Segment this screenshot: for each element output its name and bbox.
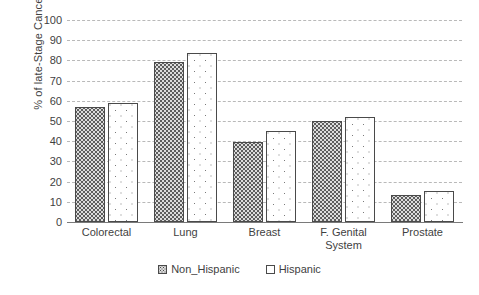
legend-swatch-icon bbox=[158, 265, 167, 274]
bar[interactable] bbox=[312, 121, 342, 222]
bar-group bbox=[304, 20, 383, 222]
plot-area bbox=[67, 20, 462, 222]
x-axis-label-line: F. Genital bbox=[304, 226, 383, 239]
bar[interactable] bbox=[345, 117, 375, 222]
y-axis-tick: 90 bbox=[30, 34, 62, 46]
legend-swatch-icon bbox=[266, 265, 275, 274]
x-axis-category-label: Colorectal bbox=[67, 226, 146, 239]
bar-group bbox=[67, 20, 146, 222]
y-axis-tick: 80 bbox=[30, 54, 62, 66]
x-axis-label-line: Prostate bbox=[383, 226, 462, 239]
chart-legend: Non_HispanicHispanic bbox=[0, 263, 479, 275]
bar-chart: % of late-Stage Cancers 1009080706050403… bbox=[0, 0, 479, 295]
y-axis-tick: 20 bbox=[30, 176, 62, 188]
bar[interactable] bbox=[233, 142, 263, 222]
bar-group bbox=[146, 20, 225, 222]
y-axis-tick: 30 bbox=[30, 155, 62, 167]
bar[interactable] bbox=[266, 131, 296, 222]
x-axis-category-labels: ColorectalLungBreastF. GenitalSystemPros… bbox=[67, 226, 462, 260]
y-axis-tick: 0 bbox=[30, 216, 62, 228]
y-axis-tick: 10 bbox=[30, 196, 62, 208]
x-axis-category-label: Lung bbox=[146, 226, 225, 239]
x-axis-label-line: Lung bbox=[146, 226, 225, 239]
bar[interactable] bbox=[424, 191, 454, 222]
gridline bbox=[67, 222, 462, 223]
y-axis-tick: 100 bbox=[30, 14, 62, 26]
y-axis-tick: 50 bbox=[30, 115, 62, 127]
y-axis-tick: 60 bbox=[30, 95, 62, 107]
x-axis-label-line: System bbox=[304, 239, 383, 252]
x-axis-category-label: Breast bbox=[225, 226, 304, 239]
bar[interactable] bbox=[108, 103, 138, 222]
legend-item[interactable]: Non_Hispanic bbox=[158, 263, 239, 275]
y-axis-tick: 70 bbox=[30, 75, 62, 87]
bar[interactable] bbox=[391, 195, 421, 222]
bars-layer bbox=[67, 20, 462, 222]
bar[interactable] bbox=[75, 107, 105, 222]
y-axis-tick: 40 bbox=[30, 135, 62, 147]
legend-label: Hispanic bbox=[279, 263, 321, 275]
legend-item[interactable]: Hispanic bbox=[266, 263, 321, 275]
bar[interactable] bbox=[187, 53, 217, 222]
bar-group bbox=[383, 20, 462, 222]
x-axis-label-line: Breast bbox=[225, 226, 304, 239]
x-axis-category-label: F. GenitalSystem bbox=[304, 226, 383, 251]
x-axis-category-label: Prostate bbox=[383, 226, 462, 239]
y-axis-tick-labels: 1009080706050403020100 bbox=[30, 20, 62, 222]
x-axis-label-line: Colorectal bbox=[67, 226, 146, 239]
bar-group bbox=[225, 20, 304, 222]
bar[interactable] bbox=[154, 62, 184, 222]
legend-label: Non_Hispanic bbox=[171, 263, 239, 275]
